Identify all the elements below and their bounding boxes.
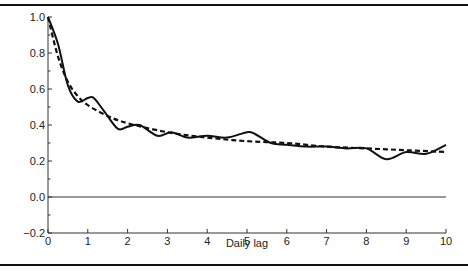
x-tick-label: 2 [125, 235, 131, 247]
y-tick-label: 0.0 [30, 191, 45, 203]
y-tick-label: 0.6 [30, 83, 45, 95]
x-tick-label: 6 [284, 235, 290, 247]
axes [48, 17, 446, 233]
x-tick-label: 10 [440, 235, 452, 247]
x-tick-label: 1 [85, 235, 91, 247]
x-axis-title: Daily lag [226, 237, 268, 249]
y-tick-label: 0.2 [30, 155, 45, 167]
y-tick-label: 0.4 [30, 119, 45, 131]
y-tick-label: 1.0 [30, 11, 45, 23]
x-tick-label: 7 [324, 235, 330, 247]
y-tick-label: 0.8 [30, 47, 45, 59]
x-tick-label: 8 [363, 235, 369, 247]
x-tick-label: 3 [164, 235, 170, 247]
x-tick-label: 9 [403, 235, 409, 247]
y-tick-label: −0.2 [23, 227, 45, 239]
x-tick-label: 0 [45, 235, 51, 247]
observed-autocorrelation-line [48, 17, 446, 159]
x-tick-label: 4 [204, 235, 210, 247]
chart: 1.00.80.60.40.20.0−0.2 012345678910 Dail… [0, 0, 468, 271]
